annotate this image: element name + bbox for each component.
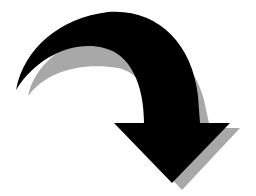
curved-arrow-down-icon	[0, 0, 256, 196]
clipart-canvas: Curved arrow	[0, 0, 256, 196]
